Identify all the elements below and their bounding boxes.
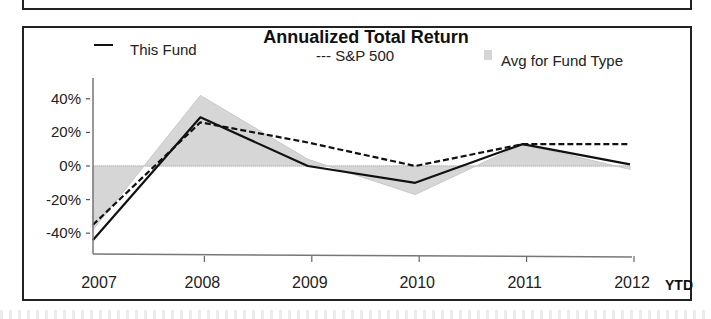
cropped-text-strip: [0, 310, 711, 319]
x-tick-label: 2010: [399, 274, 435, 291]
legend-sp-label: --- S&P 500: [316, 47, 394, 64]
y-tick-label: -20%: [46, 191, 81, 208]
y-tick-label: 20%: [51, 123, 81, 140]
y-axis: 40%20%0%-20%-40%: [46, 78, 93, 254]
x-tick-label: 2011: [507, 274, 542, 291]
x-tick-label: 2012: [614, 274, 650, 291]
x-tick-label: 2007: [81, 274, 117, 291]
legend-fund-label: This Fund: [130, 41, 197, 58]
avg-area: [93, 95, 630, 229]
y-tick-label: -40%: [46, 224, 81, 241]
x-axis: 200720082009201020112012: [81, 254, 650, 291]
ytd-label: YTD: [665, 277, 693, 293]
plot-area: [93, 95, 630, 239]
y-tick-label: 40%: [51, 90, 81, 107]
chart-title: Annualized Total Return: [263, 27, 469, 47]
x-tick-label: 2009: [292, 274, 328, 291]
y-tick-label: 0%: [59, 157, 81, 174]
annualized-return-chart: Annualized Total Return This Fund --- S&…: [0, 0, 711, 319]
legend-avg-label: Avg for Fund Type: [501, 52, 623, 69]
x-tick-label: 2008: [185, 274, 221, 291]
shaded-swatch-icon: [484, 50, 492, 60]
